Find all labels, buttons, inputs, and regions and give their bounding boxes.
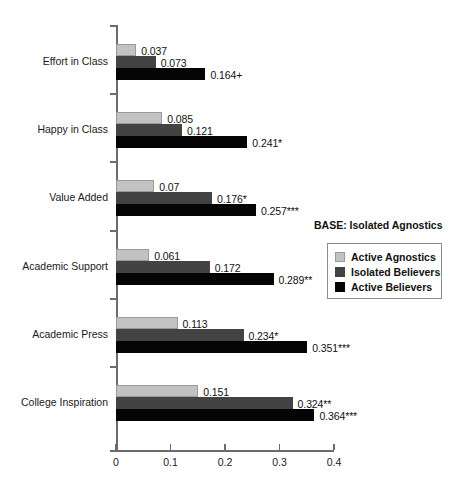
y-tick-mark	[110, 161, 116, 163]
legend-swatch-icon	[335, 267, 345, 277]
bar-happy-in-class-active-believers	[116, 136, 247, 148]
category-label-academic-press: Academic Press	[0, 328, 108, 340]
bar-chart: 00.10.20.30.4 Effort in ClassHappy in Cl…	[0, 0, 466, 490]
bar-academic-support-active-agnostics	[116, 249, 149, 261]
bar-college-inspiration-active-believers	[116, 409, 314, 421]
legend-label: Isolated Believers	[351, 266, 440, 278]
x-tick-label: 0	[96, 456, 136, 468]
bar-effort-in-class-active-believers	[116, 68, 205, 80]
bar-college-inspiration-active-agnostics	[116, 385, 198, 397]
bar-happy-in-class-isolated-believers	[116, 124, 182, 136]
x-tick-label: 0.3	[260, 456, 300, 468]
bar-effort-in-class-isolated-believers	[116, 56, 156, 68]
bar-academic-press-isolated-believers	[116, 329, 244, 341]
legend-item-active-agnostics[interactable]: Active Agnostics	[335, 250, 436, 264]
legend-swatch-icon	[335, 252, 345, 262]
bar-value-label: 0.241*	[252, 137, 282, 149]
category-label-college-inspiration: College Inspiration	[0, 396, 108, 408]
y-tick-mark	[110, 298, 116, 300]
y-tick-mark	[110, 25, 116, 27]
x-tick-label: 0.2	[205, 456, 245, 468]
bar-value-label: 0.164+	[210, 69, 242, 81]
x-tick-mark	[279, 444, 281, 450]
bar-value-label: 0.289**	[279, 274, 313, 286]
legend-item-active-believers[interactable]: Active Believers	[335, 280, 432, 294]
bar-value-label: 0.257***	[261, 205, 299, 217]
bar-academic-press-active-agnostics	[116, 317, 178, 329]
category-label-effort-in-class: Effort in Class	[0, 55, 108, 67]
bar-academic-press-active-believers	[116, 341, 307, 353]
x-tick-mark	[224, 444, 226, 450]
legend-swatch-icon	[335, 282, 345, 292]
y-tick-mark	[110, 93, 116, 95]
legend-label: Active Agnostics	[351, 251, 436, 263]
bar-value-added-active-agnostics	[116, 180, 154, 192]
x-tick-label: 0.4	[314, 456, 354, 468]
category-label-happy-in-class: Happy in Class	[0, 123, 108, 135]
y-tick-mark	[110, 366, 116, 368]
x-tick-mark	[115, 444, 117, 450]
base-note-label: BASE: Isolated Agnostics	[314, 219, 443, 231]
chart-legend: Active AgnosticsIsolated BelieversActive…	[327, 243, 442, 299]
bar-value-label: 0.351***	[312, 342, 350, 354]
x-tick-mark	[333, 444, 335, 450]
bar-happy-in-class-active-agnostics	[116, 112, 162, 124]
x-tick-mark	[170, 444, 172, 450]
bar-academic-support-active-believers	[116, 273, 274, 285]
bar-value-added-isolated-believers	[116, 192, 212, 204]
y-tick-mark	[110, 230, 116, 232]
legend-item-isolated-believers[interactable]: Isolated Believers	[335, 265, 440, 279]
category-label-value-added: Value Added	[0, 191, 108, 203]
bar-effort-in-class-active-agnostics	[116, 44, 136, 56]
category-label-academic-support: Academic Support	[0, 260, 108, 272]
bar-college-inspiration-isolated-believers	[116, 397, 293, 409]
bar-value-label: 0.364***	[319, 410, 357, 422]
bar-academic-support-isolated-believers	[116, 261, 210, 273]
y-tick-mark	[110, 450, 116, 452]
x-axis-line	[116, 450, 334, 452]
bar-value-added-active-believers	[116, 204, 256, 216]
legend-label: Active Believers	[351, 281, 432, 293]
x-tick-label: 0.1	[151, 456, 191, 468]
